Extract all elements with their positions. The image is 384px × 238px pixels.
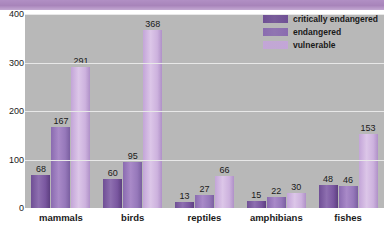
bar[interactable]: 13: [175, 202, 194, 208]
category-labels: mammalsbirdsreptilesamphibiansfishes: [25, 212, 384, 223]
bar-value-label: 68: [36, 164, 46, 174]
legend-label: vulnerable: [293, 40, 336, 50]
bar-value-label: 48: [323, 174, 333, 184]
bar-chart: 6816729160953681327661522304846153 40030…: [0, 0, 384, 238]
gridline: [25, 160, 384, 161]
bar[interactable]: 15: [247, 201, 266, 208]
bar[interactable]: 167: [51, 127, 70, 208]
legend-item-critically-endangered[interactable]: critically endangered: [263, 14, 378, 24]
legend-label: critically endangered: [293, 14, 378, 24]
bar[interactable]: 46: [339, 186, 358, 208]
bar-value-label: 46: [343, 175, 353, 185]
bar[interactable]: 27: [195, 195, 214, 208]
bar-value-label: 153: [361, 123, 376, 133]
bar-value-label: 30: [291, 182, 301, 192]
category-label: fishes: [312, 212, 384, 223]
category-label: reptiles: [169, 212, 241, 223]
bar-value-label: 15: [251, 190, 261, 200]
legend-swatch-icon: [263, 41, 288, 49]
bar-value-label: 13: [179, 191, 189, 201]
bar[interactable]: 22: [267, 197, 286, 208]
bar[interactable]: 153: [359, 134, 378, 208]
y-axis-tick-label: 0: [0, 203, 24, 213]
bar-value-label: 22: [271, 186, 281, 196]
y-axis-tick-label: 100: [0, 155, 24, 165]
bar-value-label: 27: [199, 184, 209, 194]
gridline: [25, 63, 384, 64]
y-axis-tick-label: 300: [0, 58, 24, 68]
legend-label: endangered: [293, 27, 341, 37]
legend-item-endangered[interactable]: endangered: [263, 27, 378, 37]
category-label: amphibians: [240, 212, 312, 223]
legend-swatch-icon: [263, 28, 288, 36]
chart-legend: critically endangered endangered vulnera…: [263, 14, 378, 50]
bar-value-label: 368: [145, 19, 160, 29]
bar[interactable]: 48: [319, 185, 338, 208]
bar[interactable]: 68: [31, 175, 50, 208]
bar-value-label: 60: [108, 168, 118, 178]
bar[interactable]: 291: [71, 67, 90, 208]
category-label: birds: [97, 212, 169, 223]
y-axis-tick-label: 200: [0, 106, 24, 116]
bar[interactable]: 60: [103, 179, 122, 208]
bar-value-label: 291: [73, 56, 88, 66]
bar[interactable]: 368: [143, 30, 162, 208]
bar-value-label: 66: [219, 165, 229, 175]
legend-swatch-icon: [263, 15, 288, 23]
legend-item-vulnerable[interactable]: vulnerable: [263, 40, 378, 50]
decorative-banner: [0, 0, 384, 10]
bar[interactable]: 30: [287, 193, 306, 208]
y-axis-tick-label: 400: [0, 9, 24, 19]
gridline: [25, 111, 384, 112]
bar-value-label: 167: [53, 116, 68, 126]
bar[interactable]: 95: [123, 162, 142, 208]
category-label: mammals: [25, 212, 97, 223]
bar[interactable]: 66: [215, 176, 234, 208]
